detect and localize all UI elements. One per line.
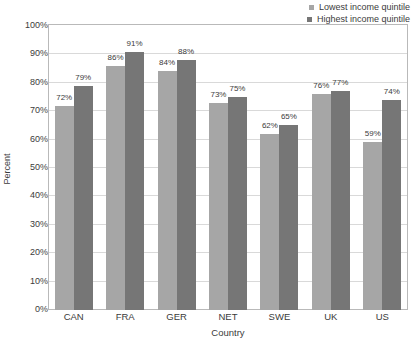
y-axis-tick-label: 30% — [8, 220, 48, 229]
x-axis-tick-label: UK — [305, 311, 356, 322]
gridline — [49, 252, 407, 253]
gridline — [49, 53, 407, 54]
x-axis-tick-label: NET — [202, 311, 253, 322]
gridline — [49, 167, 407, 168]
gridline — [49, 195, 407, 196]
x-axis-tick-label: SWE — [254, 311, 305, 322]
y-axis-tick-label: 80% — [8, 78, 48, 87]
x-axis-tick-label: US — [357, 311, 408, 322]
y-axis-tick-label: 0% — [8, 305, 48, 314]
gridline — [49, 281, 407, 282]
x-axis-tick-label: GER — [151, 311, 202, 322]
x-axis-title: Country — [48, 327, 408, 338]
y-axis-tick-label: 40% — [8, 191, 48, 200]
y-axis-tick-label: 90% — [8, 49, 48, 58]
y-axis-tick-label: 60% — [8, 135, 48, 144]
x-axis-tick-label: CAN — [48, 311, 99, 322]
y-axis-tick-label: 70% — [8, 106, 48, 115]
gridline — [49, 110, 407, 111]
gridline — [49, 82, 407, 83]
gridline — [49, 224, 407, 225]
y-axis-tick-label: 20% — [8, 248, 48, 257]
plot-area — [48, 24, 408, 310]
gridline — [49, 139, 407, 140]
y-axis: Percent 0%10%20%30%40%50%60%70%80%90%100… — [0, 24, 48, 310]
y-axis-tick-label: 100% — [8, 21, 48, 30]
x-axis-ticks: CANFRAGERNETSWEUKUS — [48, 311, 408, 322]
bar-chart: Percent 0%10%20%30%40%50%60%70%80%90%100… — [0, 0, 416, 346]
x-axis-tick-label: FRA — [99, 311, 150, 322]
y-axis-tick-label: 10% — [8, 277, 48, 286]
y-axis-tick-label: 50% — [8, 163, 48, 172]
